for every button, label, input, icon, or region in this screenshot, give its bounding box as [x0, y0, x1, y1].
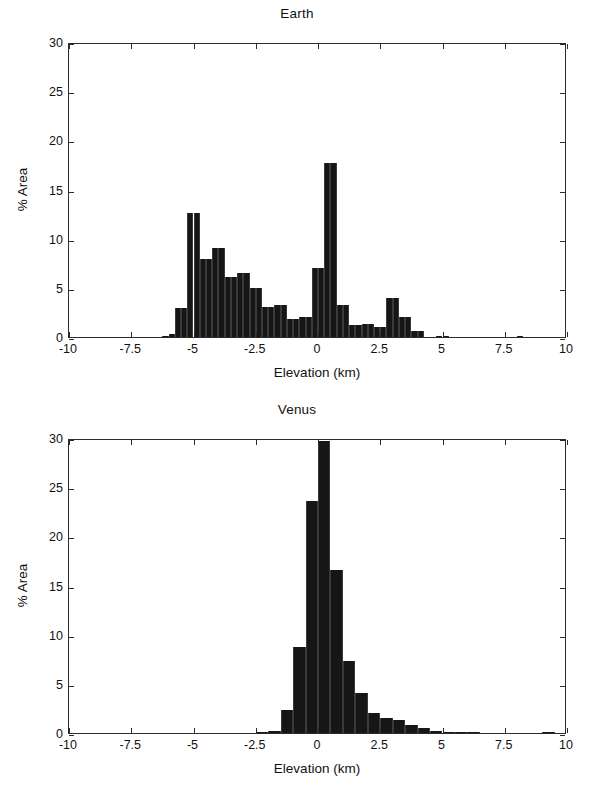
x-axis-label-earth: Elevation (km) [68, 365, 566, 380]
plot-area-earth [68, 43, 566, 338]
histogram-bar [268, 731, 280, 733]
y-axis-tick [69, 489, 74, 490]
y-axis-tick [69, 588, 74, 589]
histogram-bar [418, 728, 430, 733]
histogram-bar [380, 718, 392, 733]
histogram-bar [368, 713, 380, 733]
panel-venus: Venus Elevation (km) % Area -10-7.5-5-2.… [0, 396, 594, 792]
y-axis-tick [69, 142, 74, 143]
x-axis-tick [131, 44, 132, 49]
x-axis-tick [256, 44, 257, 49]
x-axis-tick-label: -7.5 [119, 738, 141, 752]
y-axis-tick [69, 339, 74, 340]
histogram-bar [418, 331, 424, 337]
histogram-bar [330, 570, 342, 733]
x-axis-tick [567, 728, 568, 733]
histogram-bar [467, 732, 479, 733]
y-axis-tick [69, 686, 74, 687]
histogram-bar [517, 336, 523, 337]
x-axis-tick-label: 2.5 [371, 342, 388, 356]
x-axis-tick [131, 332, 132, 337]
y-axis-tick [69, 637, 74, 638]
y-axis-tick [69, 241, 74, 242]
x-axis-tick [69, 332, 70, 337]
x-axis-tick-label: 7.5 [495, 342, 512, 356]
x-axis-tick [505, 440, 506, 445]
x-axis-tick [131, 728, 132, 733]
y-axis-tick [560, 588, 565, 589]
y-axis-tick-label: 0 [56, 727, 63, 741]
x-axis-tick-label: 5 [438, 342, 445, 356]
x-axis-tick [256, 440, 257, 445]
y-axis-tick-label: 5 [56, 678, 63, 692]
x-axis-tick [256, 332, 257, 337]
x-axis-tick [443, 332, 444, 337]
plot-area-venus [68, 439, 566, 734]
y-axis-tick [69, 192, 74, 193]
y-axis-tick-label: 25 [49, 85, 63, 99]
x-axis-tick [380, 728, 381, 733]
x-axis-tick [380, 332, 381, 337]
y-axis-tick [560, 489, 565, 490]
x-axis-tick [318, 728, 319, 733]
x-axis-tick [194, 332, 195, 337]
x-axis-tick-label: 5 [438, 738, 445, 752]
y-axis-tick-label: 30 [49, 432, 63, 446]
x-axis-tick [256, 728, 257, 733]
y-axis-tick-label: 0 [56, 331, 63, 345]
y-axis-tick [69, 538, 74, 539]
y-axis-tick [560, 93, 565, 94]
y-axis-tick [560, 637, 565, 638]
y-axis-tick [69, 44, 74, 45]
histogram-bar [455, 732, 467, 733]
y-axis-tick [560, 192, 565, 193]
x-axis-tick [194, 44, 195, 49]
y-axis-tick [69, 290, 74, 291]
y-axis-tick-label: 5 [56, 282, 63, 296]
x-axis-tick-label: -2.5 [244, 738, 266, 752]
y-axis-tick [69, 735, 74, 736]
x-axis-tick [443, 728, 444, 733]
x-axis-tick [567, 440, 568, 445]
y-axis-tick [560, 44, 565, 45]
x-axis-tick [443, 440, 444, 445]
x-axis-tick-label: -7.5 [119, 342, 141, 356]
histogram-bar [443, 732, 455, 733]
x-axis-tick-label: 10 [559, 738, 573, 752]
x-axis-tick [318, 44, 319, 49]
histogram-bar [393, 720, 405, 733]
x-axis-tick [443, 44, 444, 49]
y-axis-tick [560, 686, 565, 687]
bars-layer-venus [69, 440, 565, 733]
y-axis-tick-label: 15 [49, 184, 63, 198]
histogram-bar [256, 732, 268, 733]
histogram-bar [281, 710, 293, 733]
figure-two-panel-histograms: Earth Elevation (km) % Area -10-7.5-5-2.… [0, 0, 594, 792]
x-axis-tick-label: -5 [187, 738, 198, 752]
histogram-bar [430, 731, 442, 733]
y-axis-tick [560, 735, 565, 736]
x-axis-tick-label: 10 [559, 342, 573, 356]
histogram-bar [318, 441, 330, 733]
panel-earth: Earth Elevation (km) % Area -10-7.5-5-2.… [0, 0, 594, 396]
x-axis-tick [505, 728, 506, 733]
x-axis-tick-label: -2.5 [244, 342, 266, 356]
y-axis-tick [69, 93, 74, 94]
y-axis-label-earth: % Area [15, 150, 30, 230]
histogram-bar [405, 725, 417, 733]
y-axis-tick-label: 25 [49, 481, 63, 495]
y-axis-tick [560, 290, 565, 291]
y-axis-tick-label: 15 [49, 580, 63, 594]
panel-title-venus: Venus [0, 402, 594, 417]
y-axis-tick [69, 440, 74, 441]
y-axis-tick [560, 339, 565, 340]
x-axis-tick [131, 440, 132, 445]
y-axis-label-venus: % Area [15, 546, 30, 626]
y-axis-tick-label: 10 [49, 233, 63, 247]
y-axis-tick [560, 142, 565, 143]
x-axis-tick [380, 44, 381, 49]
y-axis-tick-label: 30 [49, 36, 63, 50]
x-axis-tick [567, 44, 568, 49]
x-axis-tick-label: 0 [314, 342, 321, 356]
x-axis-tick-label: 0 [314, 738, 321, 752]
